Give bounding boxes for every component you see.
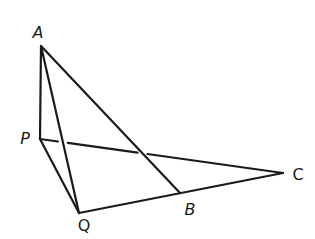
segment-aq	[41, 46, 79, 213]
point-label-a: A	[32, 23, 44, 42]
segment-ap	[40, 46, 41, 139]
segment-pc-part-1	[68, 143, 138, 153]
segment-pq	[40, 139, 79, 213]
segment-pc-part-end	[147, 154, 283, 173]
segment-qc	[79, 173, 283, 213]
labels-group: A P Q B C	[20, 23, 303, 235]
segment-pc-part-0	[40, 139, 58, 142]
point-label-b: B	[185, 200, 196, 219]
point-label-p: P	[20, 129, 30, 148]
edges-group	[40, 46, 283, 213]
point-label-c: C	[292, 165, 303, 184]
segment-ab	[41, 46, 180, 193]
geometry-diagram: A P Q B C	[0, 0, 315, 239]
point-label-q: Q	[78, 216, 91, 235]
